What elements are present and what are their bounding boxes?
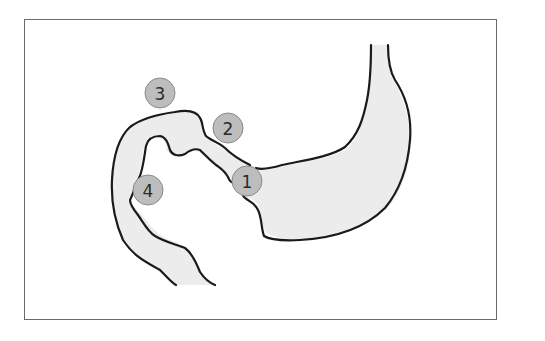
marker-4: 4 — [133, 175, 163, 205]
marker-3-label: 3 — [155, 84, 166, 104]
marker-2-label: 2 — [223, 119, 234, 139]
marker-1: 1 — [232, 166, 262, 196]
marker-2: 2 — [213, 113, 243, 143]
marker-1-label: 1 — [242, 172, 253, 192]
stomach-diagram: 1 2 3 4 — [0, 0, 545, 341]
marker-4-label: 4 — [143, 181, 154, 201]
marker-3: 3 — [145, 78, 175, 108]
